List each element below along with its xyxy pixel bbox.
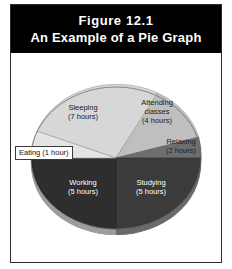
figure-frame: Figure 12.1 An Example of a Pie Graph xyxy=(10,4,222,263)
figure-title-line-2: An Example of a Pie Graph xyxy=(30,30,201,46)
figure-root: Figure 12.1 An Example of a Pie Graph xyxy=(0,0,232,269)
figure-title-line-1: Figure 12.1 xyxy=(78,13,153,29)
pie-chart-plot-area: Sleeping (7 hours) Attending classes (4 … xyxy=(11,53,221,262)
pie-callout-eating: Eating (1 hour) xyxy=(15,146,73,160)
pie-slice-studying xyxy=(116,158,201,229)
figure-title-band: Figure 12.1 An Example of a Pie Graph xyxy=(11,5,221,53)
